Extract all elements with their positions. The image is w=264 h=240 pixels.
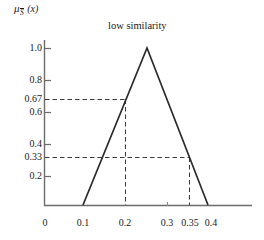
x-tick-label-0-2: 0.2 bbox=[115, 218, 135, 228]
y-tick-label-0-33: 0.33 bbox=[4, 152, 42, 162]
y-tick-label-0-67: 0.67 bbox=[4, 94, 42, 104]
y-tick-label-0-2: 0.2 bbox=[4, 171, 42, 181]
x-tick-label-0: 0 bbox=[35, 218, 55, 228]
figure-container: μS(x) low similarity 1.0 0.8 0.67 0.6 0.… bbox=[0, 0, 264, 240]
y-axis-label: μS(x) bbox=[14, 2, 38, 17]
y-tick-label-0-6: 0.6 bbox=[4, 107, 42, 117]
x-tick-label-0-35: 0.35 bbox=[178, 218, 202, 228]
x-tick-label-0-1: 0.1 bbox=[73, 218, 93, 228]
plot-canvas bbox=[0, 0, 264, 240]
x-tick-label-0-3: 0.3 bbox=[157, 218, 177, 228]
argument-x: (x) bbox=[27, 3, 38, 14]
x-tick-label-0-4: 0.4 bbox=[201, 218, 221, 228]
y-tick-label-0-4: 0.4 bbox=[4, 139, 42, 149]
y-tick-label-0-8: 0.8 bbox=[4, 75, 42, 85]
chart-title: low similarity bbox=[108, 20, 167, 31]
subscript-s-overbar: S bbox=[20, 8, 25, 17]
y-tick-label-1-0: 1.0 bbox=[4, 43, 42, 53]
